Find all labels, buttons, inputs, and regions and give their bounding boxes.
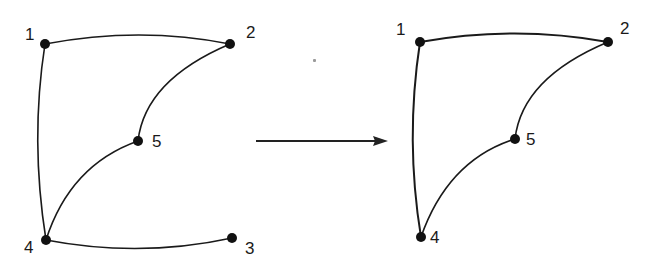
edge-2-5 bbox=[515, 42, 608, 139]
scan-artifact bbox=[313, 59, 316, 62]
edge-1-2 bbox=[420, 34, 608, 43]
graph-transformation-diagram: 1 2 3 4 5 1 2 4 5 bbox=[0, 0, 645, 274]
node-2 bbox=[225, 39, 235, 49]
node-label-4: 4 bbox=[430, 228, 439, 247]
node-1 bbox=[40, 39, 50, 49]
node-2 bbox=[603, 37, 613, 47]
node-5 bbox=[510, 134, 520, 144]
arrow-head-icon bbox=[373, 136, 388, 146]
node-label-3: 3 bbox=[245, 239, 254, 258]
node-4 bbox=[41, 235, 51, 245]
node-label-5: 5 bbox=[526, 130, 535, 149]
edge-1-4 bbox=[38, 44, 46, 240]
node-4 bbox=[416, 232, 426, 242]
right-graph: 1 2 4 5 bbox=[396, 19, 629, 247]
edge-2-5 bbox=[138, 44, 230, 141]
node-label-1: 1 bbox=[25, 25, 34, 44]
node-1 bbox=[415, 37, 425, 47]
edge-1-4 bbox=[413, 42, 421, 237]
left-graph: 1 2 3 4 5 bbox=[24, 23, 255, 258]
node-label-2: 2 bbox=[620, 19, 629, 38]
node-3 bbox=[227, 233, 237, 243]
node-label-2: 2 bbox=[246, 23, 255, 42]
node-5 bbox=[133, 136, 143, 146]
node-label-5: 5 bbox=[152, 132, 161, 151]
node-label-1: 1 bbox=[396, 20, 405, 39]
edge-4-3 bbox=[46, 238, 232, 249]
transformation-arrow bbox=[256, 136, 388, 146]
edge-5-4 bbox=[46, 141, 138, 240]
node-label-4: 4 bbox=[24, 238, 33, 257]
edge-1-2 bbox=[45, 35, 230, 44]
edge-5-4 bbox=[421, 139, 515, 237]
